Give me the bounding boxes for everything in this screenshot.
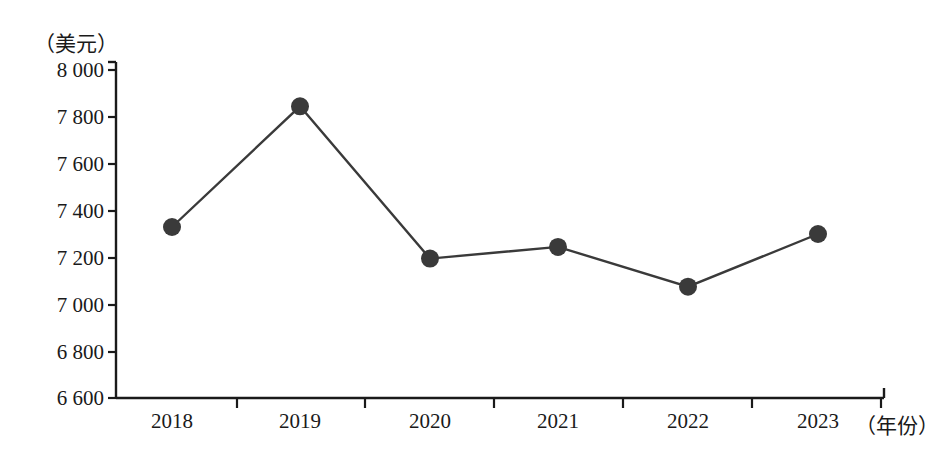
data-point-2019 xyxy=(291,97,309,115)
data-point-2023 xyxy=(809,225,827,243)
data-point-2021 xyxy=(549,238,567,256)
data-point-markers xyxy=(163,97,827,295)
data-point-2018 xyxy=(163,218,181,236)
data-point-2022 xyxy=(679,278,697,296)
data-point-2020 xyxy=(421,250,439,268)
plot-area xyxy=(0,0,939,465)
line-chart: （美元） 8 000 7 800 7 600 7 400 7 200 7 000… xyxy=(0,0,939,465)
data-line-series xyxy=(172,106,818,286)
x-axis-ticks xyxy=(237,398,881,408)
